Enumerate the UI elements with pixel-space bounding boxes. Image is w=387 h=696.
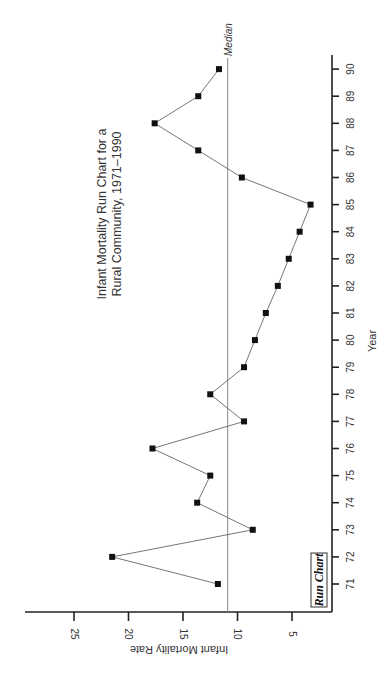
data-point-marker [297,229,303,235]
chart-title-line-2: Rural Community, 1971–1990 [110,131,124,296]
data-point-marker [195,93,201,99]
data-markers [109,66,313,587]
year-tick-label: 77 [345,415,356,427]
year-tick-label: 83 [345,253,356,265]
year-tick-label: 76 [345,443,356,455]
data-point-marker [207,473,213,479]
rate-tick-label: 25 [69,628,80,640]
chart-title-line-1: Infant Mortality Run Chart for a [95,129,109,300]
year-tick-label: 84 [345,226,356,238]
year-tick-label: 78 [345,388,356,400]
run-chart: Infant Mortality Run Chart for a Rural C… [0,0,387,696]
year-tick-label: 88 [345,117,356,129]
data-point-marker [207,391,213,397]
year-tick-label: 87 [345,144,356,156]
y-axis-title: Infant Mortality Rate [130,644,228,656]
data-point-marker [241,364,247,370]
year-axis-ticks: 7172737475767778798081828384858687888990 [332,63,356,589]
year-tick-label: 90 [345,63,356,75]
data-point-marker [152,120,158,126]
year-tick-label: 72 [345,551,356,563]
data-point-marker [275,283,281,289]
year-tick-label: 85 [345,199,356,211]
data-point-marker [215,581,221,587]
rate-tick-label: 20 [123,628,134,640]
data-point-marker [149,446,155,452]
data-point-marker [252,337,258,343]
year-tick-label: 79 [345,361,356,373]
year-tick-label: 73 [345,524,356,536]
data-point-marker [286,256,292,262]
run-chart-badge: Run Chart [311,553,327,608]
data-point-marker [216,66,222,72]
year-tick-label: 81 [345,307,356,319]
rate-tick-label: 5 [287,631,298,637]
year-tick-label: 89 [345,90,356,102]
year-tick-label: 80 [345,334,356,346]
rate-tick-label: 10 [232,628,243,640]
data-point-marker [239,175,245,181]
year-tick-label: 71 [345,578,356,590]
year-tick-label: 86 [345,172,356,184]
data-point-marker [195,147,201,153]
median-label: Median [223,23,234,56]
chart-title: Infant Mortality Run Chart for a Rural C… [95,129,124,300]
rate-tick-label: 15 [178,628,189,640]
year-tick-label: 82 [345,280,356,292]
year-tick-label: 74 [345,497,356,509]
data-point-marker [109,554,115,560]
run-chart-badge-text: Run Chart [312,553,326,608]
data-point-marker [250,527,256,533]
data-point-marker [194,500,200,506]
year-tick-label: 75 [345,470,356,482]
data-point-marker [263,310,269,316]
data-point-marker [308,202,314,208]
series-line [112,69,310,584]
x-axis-title: Year [366,330,378,353]
data-point-marker [241,418,247,424]
rate-axis-ticks: 510152025 [69,612,298,640]
